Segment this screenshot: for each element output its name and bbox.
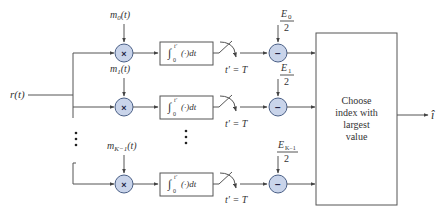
svg-text:0: 0 — [173, 111, 176, 117]
sampler-switch-icon — [213, 95, 236, 111]
output-signal: î — [397, 108, 435, 122]
integral-sign-icon: ∫ — [167, 46, 172, 60]
integral-sign-icon: ∫ — [167, 177, 172, 191]
sample-time-label: t′ = T — [225, 64, 249, 75]
output-label: î — [431, 108, 435, 122]
reference-signal-label: m0(t) — [110, 9, 131, 22]
subtractor-node: − — [269, 44, 287, 62]
integrator-ellipsis-icon — [185, 130, 188, 145]
decision-block: Choose index with largest value — [316, 33, 397, 205]
minus-icon: − — [275, 179, 281, 190]
bias-term: E K−1 2 — [277, 139, 298, 164]
multiplier-node: × — [115, 44, 133, 62]
svg-text:(·)dt: (·)dt — [181, 48, 197, 58]
svg-text:0: 0 — [173, 57, 176, 63]
reference-signal-label: mK−1(t) — [107, 140, 137, 153]
multiply-icon: × — [121, 49, 126, 59]
svg-text:Choose: Choose — [342, 95, 373, 106]
input-bus — [73, 53, 76, 184]
bias-term: E 1 2 — [280, 62, 294, 87]
sample-time-label: t′ = T — [225, 118, 249, 129]
input-label: r(t) — [10, 88, 25, 101]
svg-text:E: E — [277, 139, 284, 150]
svg-text:(·)dt: (·)dt — [181, 102, 197, 112]
svg-text:2: 2 — [284, 22, 289, 33]
input-signal: r(t) — [10, 88, 73, 101]
multiply-icon: × — [121, 180, 126, 190]
svg-text:2: 2 — [284, 153, 289, 164]
svg-text:value: value — [346, 131, 368, 142]
svg-text:2: 2 — [284, 76, 289, 87]
svg-text:largest: largest — [343, 119, 370, 130]
svg-text:1: 1 — [288, 67, 292, 75]
multiply-icon: × — [121, 103, 126, 113]
minus-icon: − — [275, 102, 281, 113]
svg-text:(·)dt: (·)dt — [181, 179, 197, 189]
svg-text:E: E — [280, 62, 287, 73]
minus-icon: − — [275, 48, 281, 59]
sampler-switch-icon — [213, 172, 236, 188]
correlator-receiver-diagram: r(t) m0(t) × ∫ t′ 0 (·)dt — [0, 0, 446, 212]
svg-text:E: E — [280, 8, 287, 19]
svg-text:index with: index with — [335, 107, 378, 118]
svg-text:K−1: K−1 — [285, 145, 296, 151]
branch-k-minus-1: mK−1(t) × ∫ t′ 0 (·)dt t′ = T E K−1 2 — [73, 139, 315, 205]
multiplier-node: × — [115, 175, 133, 193]
bias-term: E 0 2 — [280, 8, 294, 33]
integrator-block: ∫ t′ 0 (·)dt — [160, 173, 213, 196]
branch-1: m1(t) × ∫ t′ 0 (·)dt t′ = T E 1 2 − — [73, 62, 315, 129]
integrator-block: ∫ t′ 0 (·)dt — [160, 96, 213, 119]
reference-signal-label: m1(t) — [110, 63, 131, 76]
sample-time-label: t′ = T — [225, 194, 249, 205]
subtractor-node: − — [269, 175, 287, 193]
subtractor-node: − — [269, 98, 287, 116]
svg-text:0: 0 — [173, 188, 176, 194]
sampler-switch-icon — [213, 41, 236, 57]
bus-ellipsis-icon — [75, 132, 78, 147]
svg-text:0: 0 — [288, 13, 292, 21]
multiplier-node: × — [115, 98, 133, 116]
integral-sign-icon: ∫ — [167, 100, 172, 114]
integrator-block: ∫ t′ 0 (·)dt — [160, 42, 213, 65]
